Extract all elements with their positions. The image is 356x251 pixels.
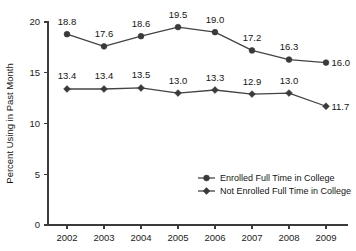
data-point-marker[interactable] — [101, 43, 107, 49]
chart-legend: Enrolled Full Time in CollegeNot Enrolle… — [198, 173, 351, 196]
data-point-marker[interactable] — [323, 103, 330, 110]
y-tick-label: 15 — [29, 67, 40, 78]
data-point-marker[interactable] — [175, 24, 181, 30]
y-axis-tick-labels: 05101520 — [29, 16, 40, 230]
legend-entry-label: Not Enrolled Full Time in College — [220, 186, 351, 196]
x-tick-label: 2002 — [56, 232, 77, 243]
x-axis-tick-labels: 20022003200420052006200720082009 — [56, 232, 336, 243]
data-point-label: 13.4 — [95, 70, 114, 81]
y-axis-title: Percent Using in Past Month — [4, 63, 15, 183]
x-tick-label: 2004 — [130, 232, 151, 243]
data-point-marker[interactable] — [138, 85, 145, 92]
y-tick-label: 0 — [35, 219, 40, 230]
data-point-label: 13.0 — [280, 75, 299, 86]
data-point-label: 11.7 — [332, 101, 350, 112]
x-tick-label: 2005 — [167, 232, 188, 243]
data-point-label: 12.9 — [243, 76, 262, 87]
data-point-marker[interactable] — [64, 31, 70, 37]
data-point-marker[interactable] — [212, 29, 218, 35]
data-point-label: 13.4 — [58, 70, 77, 81]
data-point-marker[interactable] — [249, 48, 255, 54]
axes — [44, 21, 348, 229]
y-tick-label: 5 — [35, 169, 40, 180]
y-axis-title-text: Percent Using in Past Month — [4, 63, 15, 183]
data-point-marker[interactable] — [286, 90, 293, 97]
y-tick-label: 10 — [29, 118, 40, 129]
data-point-label: 19.0 — [206, 14, 225, 25]
data-point-marker[interactable] — [323, 60, 329, 66]
data-point-label: 16.0 — [332, 57, 351, 68]
data-point-label: 13.0 — [169, 75, 188, 86]
data-point-label: 17.2 — [243, 32, 262, 43]
data-point-marker[interactable] — [64, 86, 71, 93]
legend-entry-label: Enrolled Full Time in College — [220, 173, 335, 183]
line-chart: 05101520 2002200320042005200620072008200… — [0, 0, 356, 251]
data-point-label: 18.8 — [58, 16, 77, 27]
data-point-marker[interactable] — [249, 91, 256, 98]
data-point-marker[interactable] — [101, 86, 108, 93]
y-tick-label: 20 — [29, 16, 40, 27]
data-point-marker[interactable] — [175, 90, 182, 97]
x-tick-label: 2006 — [204, 232, 225, 243]
data-point-marker[interactable] — [212, 87, 219, 94]
legend-marker-circle-icon — [204, 175, 210, 181]
data-point-label: 13.5 — [132, 69, 151, 80]
data-point-label: 19.5 — [169, 9, 188, 20]
chart-canvas: 05101520 2002200320042005200620072008200… — [0, 0, 356, 251]
data-point-label: 17.6 — [95, 28, 114, 39]
data-point-marker[interactable] — [138, 33, 144, 39]
x-tick-label: 2003 — [93, 232, 114, 243]
data-point-label: 13.3 — [206, 72, 225, 83]
x-tick-label: 2008 — [278, 232, 299, 243]
data-point-marker[interactable] — [286, 57, 292, 63]
x-tick-label: 2007 — [241, 232, 262, 243]
data-point-label: 18.6 — [132, 18, 151, 29]
data-point-label: 16.3 — [280, 41, 299, 52]
x-tick-label: 2009 — [315, 232, 336, 243]
legend-marker-diamond-icon — [203, 188, 210, 195]
data-labels: 18.817.618.619.519.017.216.316.013.413.4… — [58, 9, 350, 112]
